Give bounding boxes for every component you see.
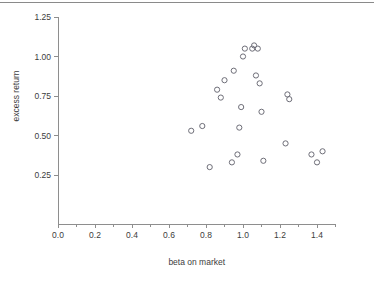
data-point xyxy=(207,165,212,170)
data-point xyxy=(287,97,292,102)
data-point xyxy=(314,160,319,165)
data-point xyxy=(229,160,234,165)
data-point xyxy=(242,46,247,51)
data-point xyxy=(261,158,266,163)
x-tick-label: 1.2 xyxy=(274,230,286,240)
data-point xyxy=(320,149,325,154)
x-tick-label: 1.0 xyxy=(237,230,249,240)
data-point xyxy=(240,54,245,59)
x-tick-label: 0.6 xyxy=(163,230,175,240)
data-point xyxy=(257,81,262,86)
y-axis-title: excess return xyxy=(11,70,21,121)
data-point xyxy=(231,68,236,73)
y-tick-label: 1.00 xyxy=(34,52,51,62)
x-axis-title: beta on market xyxy=(168,257,225,267)
y-tick-label: 1.25 xyxy=(34,12,51,22)
data-point xyxy=(237,125,242,130)
scatter-plot-figure: 0.250.500.751.001.250.00.20.40.60.81.01.… xyxy=(0,0,374,281)
data-point xyxy=(255,46,260,51)
data-point xyxy=(189,128,194,133)
data-point xyxy=(309,152,314,157)
y-tick-label: 0.25 xyxy=(34,170,51,180)
data-point xyxy=(235,152,240,157)
data-point xyxy=(222,78,227,83)
x-tick-label: 0.0 xyxy=(52,230,64,240)
axes-layer xyxy=(54,17,336,228)
data-point xyxy=(253,73,258,78)
y-tick-label: 0.50 xyxy=(34,131,51,141)
x-tick-label: 0.4 xyxy=(126,230,138,240)
data-points-layer xyxy=(189,43,326,170)
data-point xyxy=(218,95,223,100)
data-point xyxy=(239,104,244,109)
data-point xyxy=(283,141,288,146)
data-point xyxy=(259,109,264,114)
y-tick-label: 0.75 xyxy=(34,91,51,101)
x-tick-label: 0.8 xyxy=(200,230,212,240)
x-tick-label: 1.4 xyxy=(311,230,323,240)
data-point xyxy=(215,87,220,92)
x-tick-label: 0.2 xyxy=(89,230,101,240)
data-point xyxy=(200,123,205,128)
chart-canvas: 0.250.500.751.001.250.00.20.40.60.81.01.… xyxy=(0,0,374,281)
